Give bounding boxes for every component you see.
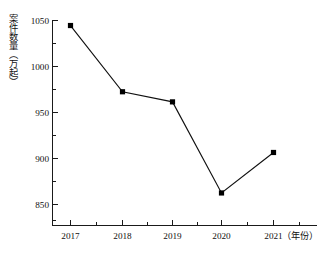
line-chart: 案件数量（万起） 1050 1000 950 900 (0, 0, 335, 254)
x-tick-label-2018: 2018 (113, 231, 132, 241)
y-tick-label-1050: 1050 (31, 16, 50, 26)
x-tick-label-2021: 2021 (264, 231, 283, 241)
y-tick-label-1000: 1000 (31, 62, 50, 72)
data-point-2018 (120, 89, 125, 94)
x-axis-caption: （年份） (282, 230, 318, 241)
x-tick-label-2020: 2020 (212, 231, 231, 241)
data-point-2021 (271, 150, 276, 155)
y-tick-label-900: 900 (35, 154, 49, 164)
data-point-2019 (170, 99, 175, 104)
y-tick-label-850: 850 (35, 200, 49, 210)
series-line-case-count (71, 26, 274, 193)
data-point-2017 (68, 23, 73, 28)
x-tick-label-2019: 2019 (163, 231, 182, 241)
series-markers (68, 23, 276, 196)
y-tick-label-950: 950 (35, 108, 49, 118)
data-point-2020 (219, 190, 224, 195)
x-tick-label-2017: 2017 (61, 231, 80, 241)
chart-plot-area: 1050 1000 950 900 850 2017 2018 2019 202… (0, 0, 335, 254)
